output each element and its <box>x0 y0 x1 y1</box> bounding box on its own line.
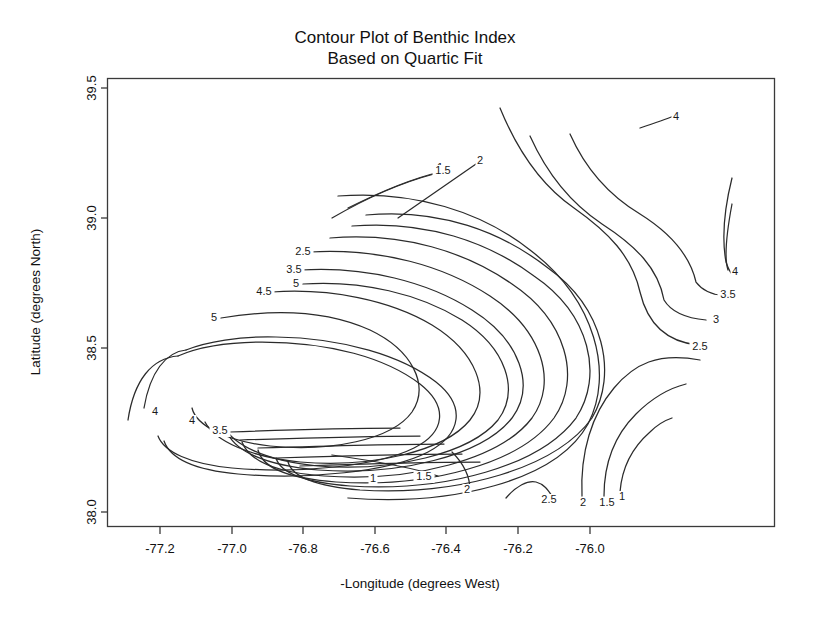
x-tick-label: -76.4 <box>431 541 461 556</box>
contour-path-2p5-left <box>242 251 544 477</box>
contour-path-right-edge <box>726 204 732 270</box>
contour-level-label: 5 <box>293 277 299 289</box>
y-tick-label: 38.5 <box>84 335 99 360</box>
contour-path-1-left <box>288 214 605 491</box>
contour-path-right-2p5 <box>500 108 698 345</box>
x-tick-label: -76.0 <box>575 541 605 556</box>
contour-path-br-1 <box>620 418 672 492</box>
contour-level-label: 4 <box>673 110 679 122</box>
contour-plot-figure: Contour Plot of Benthic Index Based on Q… <box>0 0 814 629</box>
x-tick-label: -76.2 <box>503 541 533 556</box>
contour-level-label: 2 <box>464 483 470 495</box>
y-axis-title: Latitude (degrees North) <box>28 229 43 375</box>
contour-level-label: 2 <box>580 496 586 508</box>
contour-level-label: 4.5 <box>256 285 271 297</box>
contour-path-left-loop-outer2 <box>164 337 456 476</box>
x-tick-label: -77.0 <box>217 541 247 556</box>
contour-level-label: 3.5 <box>212 424 227 436</box>
contour-level-label: 1 <box>619 490 625 502</box>
contour-path-hseg-1 <box>230 428 400 432</box>
x-tick-label: -76.6 <box>360 541 390 556</box>
contour-level-label: 2.5 <box>541 493 556 505</box>
plot-canvas: Contour Plot of Benthic Index Based on Q… <box>0 0 814 629</box>
y-tick-label: 38.0 <box>84 499 99 524</box>
chart-title: Contour Plot of Benthic Index <box>294 28 516 47</box>
contour-level-label: 5 <box>211 311 217 323</box>
chart-subtitle: Based on Quartic Fit <box>328 49 483 68</box>
contour-level-label: 1.5 <box>435 164 450 176</box>
contour-path-top-right-4 <box>640 116 674 128</box>
contour-level-label: 1.5 <box>416 470 431 482</box>
contour-labels: 11.5211.522.53.554.55443.5443.532.52.521… <box>151 110 740 509</box>
contour-level-label: 2 <box>477 154 483 166</box>
contour-path-right-3 <box>530 136 706 320</box>
x-axis-title: -Longitude (degrees West) <box>340 576 500 591</box>
x-tick-label: -76.8 <box>288 541 318 556</box>
contour-level-label: 3 <box>713 313 719 325</box>
contour-path-3p5-left <box>228 269 523 471</box>
contour-path-hseg-2 <box>240 436 420 440</box>
contour-level-label: 1.5 <box>599 496 614 508</box>
contour-level-label: 3.5 <box>286 263 301 275</box>
contour-level-label: 4 <box>732 265 738 277</box>
contour-level-label: 2.5 <box>692 340 707 352</box>
contour-path-br-1p5 <box>604 384 686 496</box>
x-axis-tick-labels: -77.2 -77.0 -76.8 -76.6 -76.4 -76.2 -76.… <box>145 541 605 556</box>
x-axis-ticks <box>160 527 590 534</box>
contour-level-label: 4 <box>152 405 158 417</box>
y-tick-label: 39.0 <box>84 205 99 230</box>
x-tick-label: -77.2 <box>145 541 175 556</box>
y-tick-label: 39.5 <box>84 75 99 100</box>
contour-lines <box>128 108 732 499</box>
contour-level-label: 2.5 <box>295 245 310 257</box>
y-axis-tick-labels: 39.5 39.0 38.5 38.0 <box>84 75 99 524</box>
contour-level-label: 3.5 <box>720 288 735 300</box>
contour-level-label: 4 <box>189 414 195 426</box>
y-axis-ticks <box>101 88 107 512</box>
plot-frame <box>108 79 775 527</box>
contour-path-right-3p5 <box>570 134 722 295</box>
contour-level-label: 1 <box>370 472 376 484</box>
contour-path-left-loop-outer <box>158 342 440 470</box>
